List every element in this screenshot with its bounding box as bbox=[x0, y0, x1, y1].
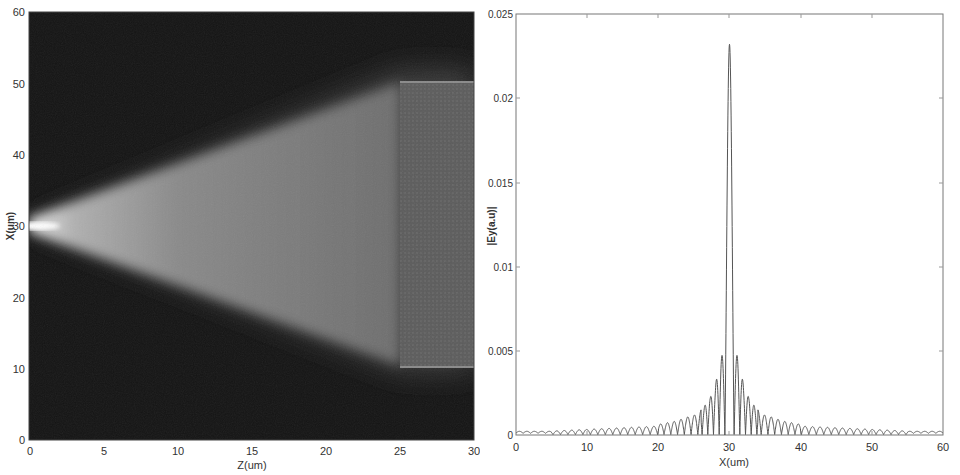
x-tick-25: 25 bbox=[394, 445, 406, 457]
x-axis-label: X(um) bbox=[719, 456, 749, 468]
y-axis-label: X(um) bbox=[5, 212, 16, 240]
y-tick-0.025: 0.025 bbox=[488, 9, 513, 20]
x-tick-5: 5 bbox=[101, 445, 107, 457]
x-tick-20: 20 bbox=[652, 441, 664, 453]
y-tick-0: 0 bbox=[19, 434, 25, 446]
x-tick-30: 30 bbox=[723, 441, 735, 453]
y-axis-label: |Ey(a.u)| bbox=[486, 206, 497, 245]
x-axis-ticks: 0 10 20 30 40 50 60 bbox=[513, 441, 949, 453]
y-tick-0.015: 0.015 bbox=[488, 178, 513, 189]
x-tick-30: 30 bbox=[468, 445, 480, 457]
x-tick-40: 40 bbox=[795, 441, 807, 453]
x-axis-label: Z(um) bbox=[237, 459, 266, 471]
field-intensity-map: 0 10 20 30 40 50 60 0 5 10 15 20 25 30 Z… bbox=[0, 0, 480, 475]
y-tick-60: 60 bbox=[13, 6, 25, 18]
y-tick-0: 0 bbox=[507, 430, 513, 441]
y-tick-20: 20 bbox=[13, 292, 25, 304]
ey-profile-chart: 0 0.005 0.01 0.015 0.02 0.025 0 10 20 30… bbox=[480, 0, 960, 475]
y-tick-0.02: 0.02 bbox=[494, 93, 514, 104]
y-tick-0.005: 0.005 bbox=[488, 346, 513, 357]
y-tick-10: 10 bbox=[13, 363, 25, 375]
x-tick-0: 0 bbox=[27, 445, 33, 457]
x-tick-0: 0 bbox=[513, 441, 519, 453]
x-tick-15: 15 bbox=[246, 445, 258, 457]
x-tick-60: 60 bbox=[937, 441, 949, 453]
x-tick-20: 20 bbox=[320, 445, 332, 457]
y-tick-50: 50 bbox=[13, 78, 25, 90]
y-tick-0.01: 0.01 bbox=[494, 262, 514, 273]
x-axis-ticks: 0 5 10 15 20 25 30 bbox=[27, 445, 480, 457]
x-tick-50: 50 bbox=[866, 441, 878, 453]
y-tick-40: 40 bbox=[13, 149, 25, 161]
x-tick-10: 10 bbox=[172, 445, 184, 457]
x-tick-10: 10 bbox=[581, 441, 593, 453]
